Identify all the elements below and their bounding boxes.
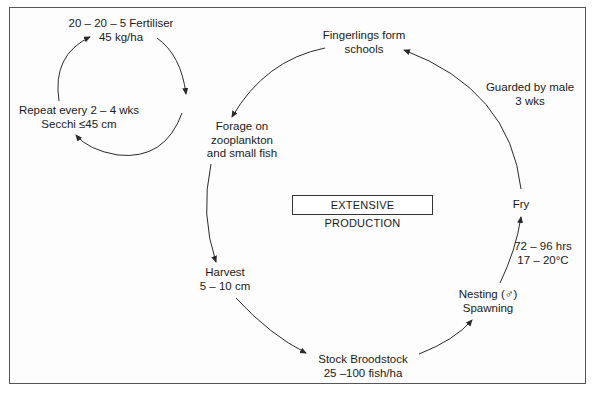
- arrow-fertiliser-to-right: [157, 38, 186, 94]
- incubation-line-2: 17 – 20°C: [514, 254, 572, 268]
- arrow-fingerlings-to-forage: [232, 48, 325, 117]
- fingerlings-label: Fingerlings form schools: [323, 29, 405, 56]
- repeat-label: Repeat every 2 – 4 wks Secchi ≤45 cm: [19, 104, 139, 131]
- forage-line-2: zooplankton: [207, 134, 277, 148]
- fry-line-1: Fry: [513, 198, 530, 212]
- forage-line-1: Forage on: [207, 120, 277, 134]
- nesting-line-2: Spawning: [459, 302, 517, 316]
- fertiliser-line-1: 20 – 20 – 5 Fertiliser: [69, 17, 174, 31]
- stock-label: Stock Broodstock 25 –100 fish/ha: [318, 353, 407, 380]
- nesting-label: Nesting (♂) Spawning: [459, 288, 517, 315]
- arrow-forage-to-harvest: [207, 164, 216, 262]
- stock-line-1: Stock Broodstock: [318, 353, 407, 367]
- arrow-repeat-to-fertiliser: [58, 37, 90, 101]
- harvest-label: Harvest 5 – 10 cm: [200, 266, 251, 293]
- arrow-stock-to-nesting: [419, 320, 472, 354]
- harvest-line-1: Harvest: [200, 266, 251, 280]
- forage-line-3: and small fish: [207, 147, 277, 161]
- diagram-title: EXTENSIVE PRODUCTION: [292, 195, 433, 215]
- harvest-line-2: 5 – 10 cm: [200, 280, 251, 294]
- incubation-label: 72 – 96 hrs 17 – 20°C: [514, 240, 572, 267]
- stock-line-2: 25 –100 fish/ha: [318, 367, 407, 381]
- guarded-line-2: 3 wks: [486, 95, 574, 109]
- incubation-line-1: 72 – 96 hrs: [514, 240, 572, 254]
- fingerlings-line-1: Fingerlings form: [323, 29, 405, 43]
- arrow-harvest-to-stock: [236, 298, 306, 353]
- guarded-line-1: Guarded by male: [486, 81, 574, 95]
- guarded-label: Guarded by male 3 wks: [486, 81, 574, 108]
- forage-label: Forage on zooplankton and small fish: [207, 120, 277, 161]
- nesting-line-1: Nesting (♂): [459, 288, 517, 302]
- fertiliser-line-2: 45 kg/ha: [69, 31, 174, 45]
- fry-label: Fry: [513, 198, 530, 212]
- fingerlings-line-2: schools: [323, 43, 405, 57]
- repeat-line-2: Secchi ≤45 cm: [19, 118, 139, 132]
- repeat-line-1: Repeat every 2 – 4 wks: [19, 104, 139, 118]
- arrow-fry-to-fingerlings: [404, 50, 521, 189]
- fertiliser-label: 20 – 20 – 5 Fertiliser 45 kg/ha: [69, 17, 174, 44]
